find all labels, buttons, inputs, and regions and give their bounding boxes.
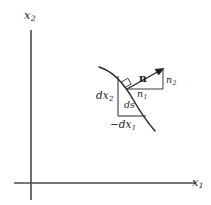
n2-label: n2 (166, 75, 176, 86)
normal-vector-label: n (139, 73, 147, 84)
y-axis-label: x2 (24, 10, 36, 23)
ds-label: ds (124, 100, 135, 110)
right-angle-mark (122, 78, 132, 88)
minus-dx1-label: −dx1 (110, 119, 136, 132)
normal-vector-diagram: x2 x1 dx2 −dx1 ds n n1 n2 (0, 0, 211, 205)
x-axis-label: x1 (192, 177, 204, 190)
dx2-label: dx2 (96, 90, 113, 103)
n1-label: n1 (137, 89, 147, 100)
